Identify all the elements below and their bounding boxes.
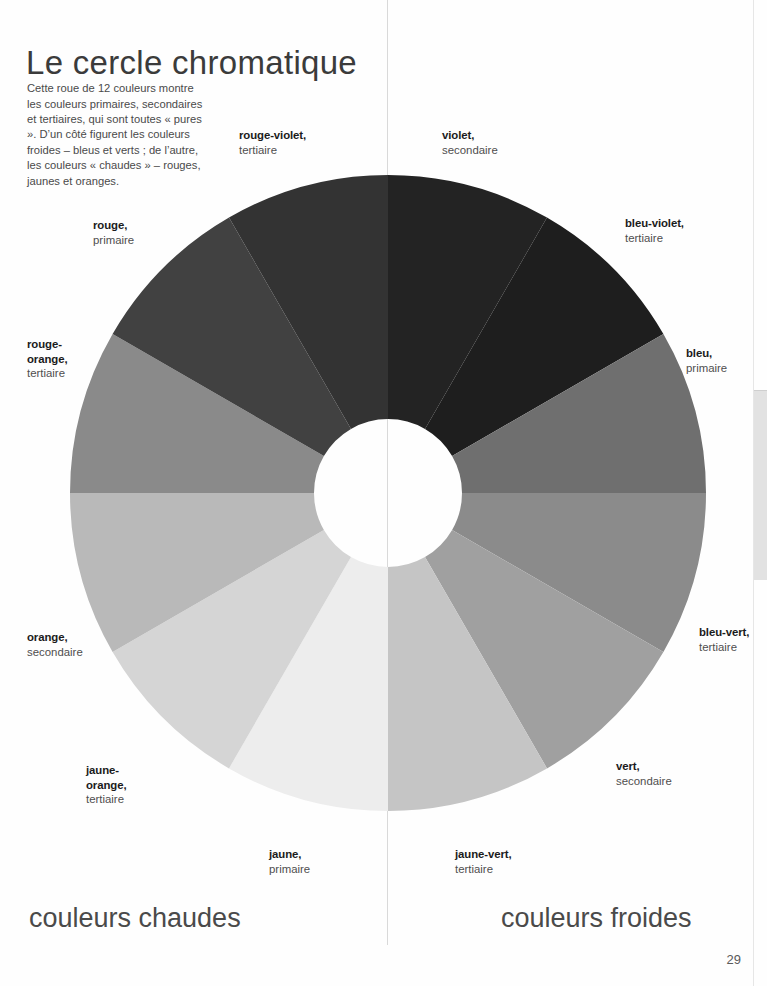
label-jaune-vert: jaune-vert, tertiaire [455, 847, 512, 876]
page-edge-tab-line [754, 390, 767, 391]
label-vert: vert, secondaire [616, 759, 672, 788]
page-number: 29 [727, 952, 741, 967]
label-jaune-orange: jaune- orange, tertiaire [86, 763, 126, 807]
color-wheel-svg [70, 175, 706, 812]
label-jaune-vert-type: tertiaire [455, 862, 512, 877]
label-bleu-vert-type: tertiaire [699, 640, 749, 655]
label-violet-type: secondaire [442, 143, 498, 158]
label-orange-name: orange, [27, 630, 83, 645]
label-bleu-violet-type: tertiaire [625, 231, 684, 246]
label-rouge-violet-type: tertiaire [239, 143, 306, 158]
color-wheel [70, 175, 706, 812]
label-jaune-type: primaire [269, 862, 310, 877]
caption-couleurs-chaudes: couleurs chaudes [29, 903, 241, 934]
label-bleu-violet: bleu-violet, tertiaire [625, 216, 684, 245]
label-rouge-violet-name: rouge-violet, [239, 128, 306, 143]
label-violet-name: violet, [442, 128, 498, 143]
label-bleu-vert: bleu-vert, tertiaire [699, 625, 749, 654]
label-violet: violet, secondaire [442, 128, 498, 157]
label-orange-type: secondaire [27, 645, 83, 660]
label-rouge-orange-name-line1: rouge- [27, 337, 67, 352]
label-bleu-name: bleu, [686, 346, 727, 361]
label-rouge: rouge, primaire [93, 218, 134, 247]
page-title: Le cercle chromatique [26, 44, 357, 82]
label-bleu: bleu, primaire [686, 346, 727, 375]
label-jaune-vert-name: jaune-vert, [455, 847, 512, 862]
label-vert-type: secondaire [616, 774, 672, 789]
label-bleu-type: primaire [686, 361, 727, 376]
label-bleu-violet-name: bleu-violet, [625, 216, 684, 231]
intro-paragraph: Cette roue de 12 couleurs montre les cou… [27, 81, 209, 189]
label-rouge-type: primaire [93, 233, 134, 248]
label-rouge-name: rouge, [93, 218, 134, 233]
label-rouge-orange-name-line2: orange, [27, 352, 67, 367]
label-jaune: jaune, primaire [269, 847, 310, 876]
label-rouge-orange: rouge- orange, tertiaire [27, 337, 67, 381]
page-canvas: Le cercle chromatique Cette roue de 12 c… [0, 0, 767, 986]
label-rouge-orange-type: tertiaire [27, 366, 67, 381]
page-edge-tab [754, 390, 767, 580]
label-jaune-orange-name-line2: orange, [86, 778, 126, 793]
label-jaune-orange-name-line1: jaune- [86, 763, 126, 778]
label-vert-name: vert, [616, 759, 672, 774]
label-rouge-violet: rouge-violet, tertiaire [239, 128, 306, 157]
label-orange: orange, secondaire [27, 630, 83, 659]
label-jaune-name: jaune, [269, 847, 310, 862]
label-jaune-orange-type: tertiaire [86, 792, 126, 807]
label-bleu-vert-name: bleu-vert, [699, 625, 749, 640]
caption-couleurs-froides: couleurs froides [501, 903, 692, 934]
